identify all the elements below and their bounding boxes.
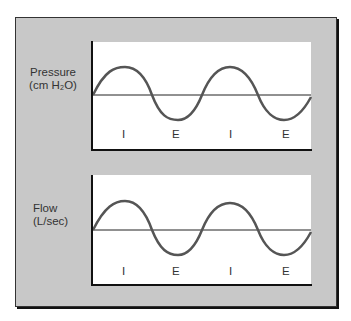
flow-phase-2: E bbox=[172, 265, 180, 278]
flow-phase-3: I bbox=[229, 265, 232, 278]
pressure-phase-2: E bbox=[172, 128, 180, 141]
pressure-phase-1: I bbox=[122, 128, 125, 141]
pressure-phase-4: E bbox=[282, 128, 290, 141]
flow-phase-4: E bbox=[282, 265, 290, 278]
flow-phase-1: I bbox=[122, 265, 125, 278]
pressure-phase-3: I bbox=[229, 128, 232, 141]
